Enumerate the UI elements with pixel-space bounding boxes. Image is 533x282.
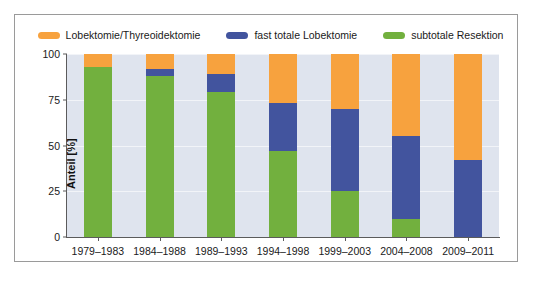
y-tick-mark <box>63 191 67 192</box>
x-tick-mark <box>221 237 222 241</box>
y-tick-label: 50 <box>48 140 60 152</box>
y-tick-mark <box>63 237 67 238</box>
x-tick-mark <box>283 237 284 241</box>
legend-swatch-icon <box>38 32 60 39</box>
bar-segment <box>146 54 174 69</box>
x-tick-label: 1979–1983 <box>72 245 125 257</box>
x-tick-mark <box>468 237 469 241</box>
bar-segment <box>146 69 174 76</box>
bar-stack <box>392 54 420 237</box>
x-tick-label: 1999–2003 <box>318 245 371 257</box>
y-tick-label: 75 <box>48 94 60 106</box>
x-tick-label: 1994–1998 <box>257 245 310 257</box>
legend-item: Lobektomie/Thyreoidektomie <box>38 30 201 41</box>
bar-segment <box>454 160 482 237</box>
y-tick-mark <box>63 145 67 146</box>
x-tick-mark <box>160 237 161 241</box>
legend-item: fast totale Lobektomie <box>226 30 357 41</box>
bar-segment <box>207 54 235 74</box>
legend-swatch-icon <box>226 32 248 39</box>
bar-stack <box>207 54 235 237</box>
bar-stack <box>146 54 174 237</box>
figure: Lobektomie/Thyreoidektomiefast totale Lo… <box>0 0 533 282</box>
y-tick-label: 100 <box>42 48 60 60</box>
legend-label: Lobektomie/Thyreoidektomie <box>66 30 201 41</box>
legend-label: subtotale Resektion <box>411 30 503 41</box>
x-tick-label: 2004–2008 <box>380 245 433 257</box>
bar-segment <box>269 151 297 237</box>
bar-segment <box>392 136 420 218</box>
bar-segment <box>207 74 235 92</box>
bar-segment <box>331 54 359 109</box>
chart-legend: Lobektomie/Thyreoidektomiefast totale Lo… <box>43 26 498 44</box>
y-tick-label: 25 <box>48 185 60 197</box>
bar-segment <box>331 109 359 191</box>
y-tick-mark <box>63 99 67 100</box>
bar-segment <box>269 54 297 103</box>
bar-segment <box>84 67 112 237</box>
y-tick-label: 0 <box>54 231 60 243</box>
bar-stack <box>84 54 112 237</box>
legend-swatch-icon <box>383 32 405 39</box>
bar-segment <box>207 92 235 237</box>
bar-segment <box>392 54 420 136</box>
legend-item: subtotale Resektion <box>383 30 503 41</box>
x-tick-mark <box>345 237 346 241</box>
bar-segment <box>392 219 420 237</box>
legend-label: fast totale Lobektomie <box>254 30 357 41</box>
x-tick-label: 2009–2011 <box>442 245 494 257</box>
bar-segment <box>146 76 174 237</box>
bar-segment <box>84 54 112 67</box>
x-tick-mark <box>406 237 407 241</box>
bar-segment <box>454 54 482 160</box>
x-tick-label: 1984–1988 <box>133 245 186 257</box>
x-tick-label: 1989–1993 <box>195 245 248 257</box>
y-tick-mark <box>63 54 67 55</box>
bar-stack <box>269 54 297 237</box>
plot-area: Anteil [%] 0255075100 1979–19831984–1988… <box>67 54 499 237</box>
x-tick-mark <box>98 237 99 241</box>
figure-frame: Lobektomie/Thyreoidektomiefast totale Lo… <box>14 14 518 262</box>
bar-stack <box>454 54 482 237</box>
bar-segment <box>269 103 297 151</box>
bar-segment <box>331 191 359 237</box>
bar-stack <box>331 54 359 237</box>
